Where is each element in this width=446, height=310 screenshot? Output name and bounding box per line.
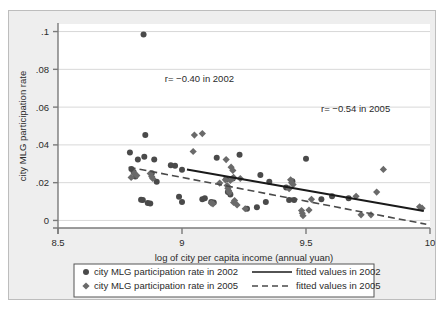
data-point-circle — [151, 157, 157, 163]
plot-background — [58, 24, 430, 228]
legend-series-label: city MLG participation rate in 2002 — [94, 266, 238, 277]
data-point-circle — [172, 163, 178, 169]
y-tick-label-3: .06 — [36, 102, 49, 113]
data-point-circle — [147, 200, 153, 206]
y-tick-label-4: .08 — [36, 64, 49, 75]
y-tick-label-1: .02 — [36, 177, 49, 188]
data-point-circle — [141, 31, 147, 37]
data-point-circle — [214, 155, 220, 161]
x-tick-label-1: 9 — [179, 237, 184, 248]
data-point-circle — [254, 204, 260, 210]
legend-fit-label: fitted values in 2005 — [296, 280, 381, 291]
chart-figure: 0.02.04.06.08.18.599.510log of city per … — [0, 0, 446, 310]
legend-series-label: city MLG participation rate in 2005 — [94, 280, 238, 291]
y-tick-label-5: .1 — [41, 26, 49, 37]
scatter-chart: 0.02.04.06.08.18.599.510log of city per … — [0, 0, 446, 310]
data-point-circle — [176, 194, 182, 200]
x-axis-title: log of city per capita income (annual yu… — [155, 252, 334, 263]
legend-fit-label: fitted values in 2002 — [296, 266, 381, 277]
data-point-circle — [135, 157, 141, 163]
legend-marker-circle-icon — [83, 269, 89, 275]
x-tick-label-3: 10 — [425, 237, 436, 248]
legend-entry-2002[interactable]: city MLG participation rate in 2002fitte… — [83, 266, 381, 277]
data-point-circle — [179, 199, 185, 205]
annotation-r-2005: r= −0.54 in 2005 — [321, 103, 390, 114]
y-axis-title: city MLG participation rate — [17, 71, 28, 181]
data-point-circle — [237, 152, 243, 158]
legend-entry-2005[interactable]: city MLG participation rate in 2005fitte… — [82, 280, 380, 291]
data-point-circle — [318, 196, 324, 202]
data-point-circle — [142, 132, 148, 138]
y-tick-label-2: .04 — [36, 139, 49, 150]
data-point-circle — [127, 149, 133, 155]
data-point-circle — [179, 167, 185, 173]
data-point-circle — [140, 197, 146, 203]
data-point-circle — [202, 195, 208, 201]
data-point-circle — [263, 199, 269, 205]
data-point-circle — [257, 172, 263, 178]
annotation-r-2002: r= −0.40 in 2002 — [165, 73, 234, 84]
x-tick-label-0: 8.5 — [51, 237, 64, 248]
x-tick-label-2: 9.5 — [299, 237, 312, 248]
data-point-circle — [141, 154, 147, 160]
data-point-circle — [303, 156, 309, 162]
y-tick-label-0: 0 — [44, 215, 49, 226]
